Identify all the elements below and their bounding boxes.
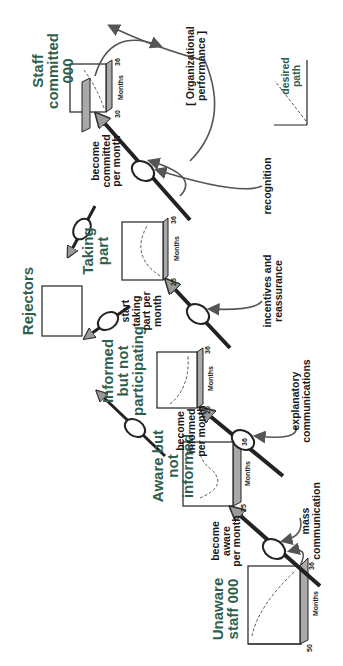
axis-ymax-committed: 30 (114, 110, 121, 118)
stock-label-rejectors: Rejectors (20, 256, 35, 346)
axis-ymax-informed: 25 (204, 406, 211, 414)
axis-xmax-committed: 36 (114, 58, 121, 66)
flow-label-become-committed: become committed per month (90, 126, 122, 196)
flow-label-become-informed: become informed per month (175, 401, 207, 461)
flow-label-start-taking-part: start taking part per month (120, 281, 162, 341)
stock-label-unaware: Unaware staff 000 (210, 564, 240, 654)
influence-label-mass-communication: mass communication (300, 476, 321, 566)
stock-box-informed (157, 348, 203, 408)
axis-xmax-informed: 36 (204, 346, 211, 354)
axis-ymax-aware: 25 (240, 504, 247, 512)
stock-box-taking-part (122, 218, 168, 280)
stock-label-committed: Staff committed 000 (30, 26, 75, 116)
flow-label-become-aware: become aware per month (210, 511, 242, 571)
axis-ymax-unaware: 50 (306, 644, 313, 652)
axis-xlabel-aware: Months (244, 461, 251, 486)
axis-ymax-taking-part: 25 (170, 278, 177, 286)
influence-label-org-performance: [ Organizational performance ] (185, 11, 206, 121)
stock-label-taking-part: Taking part (80, 216, 110, 286)
axis-xmax-unaware: 36 (308, 562, 315, 570)
stock-box-rejectors (42, 78, 90, 336)
axis-xmax-aware: 36 (241, 438, 248, 446)
axis-xlabel-committed: Months (117, 75, 124, 100)
axis-xlabel-unaware: Months (312, 591, 319, 616)
axis-xlabel-taking-part: Months (173, 236, 180, 261)
legend-label: desired path (280, 46, 301, 106)
stock-box-committed (70, 60, 112, 112)
influence-label-explanatory: explanatory communications (290, 351, 311, 451)
stock-flow-diagram: Unaware staff 000 Aware but not informed… (0, 0, 343, 666)
influence-label-recognition: recognition (262, 136, 273, 236)
axis-xlabel-informed: Months (207, 366, 214, 391)
influence-label-incentives: incentives and reassurance (262, 241, 283, 341)
axis-xmax-taking-part: 36 (170, 216, 177, 224)
stock-box-unaware (248, 558, 308, 644)
